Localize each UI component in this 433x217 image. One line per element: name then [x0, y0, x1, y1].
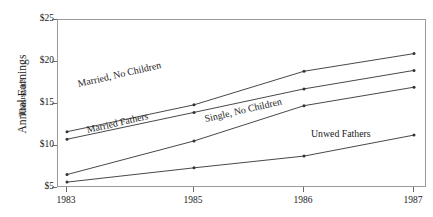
y-tick-label: $10: [28, 140, 54, 150]
y-tick-label: $25: [28, 14, 54, 24]
data-point: [413, 134, 416, 137]
data-point: [303, 155, 306, 158]
data-point: [413, 69, 416, 72]
data-point: [193, 111, 196, 114]
data-point: [303, 104, 306, 107]
chart-figure: Annual Earnings Thousands $25 $20 $15 $1…: [0, 0, 433, 217]
x-tick-label: 1986: [283, 195, 323, 205]
x-tick-label: 1985: [173, 195, 213, 205]
y-tick-mark: [52, 187, 57, 188]
data-point: [66, 138, 69, 141]
x-tick-label: 1987: [393, 195, 433, 205]
y-axis-tick-labels: $25 $20 $15 $10 $5: [26, 0, 54, 217]
y-tick-label: $5: [28, 182, 54, 192]
data-point: [413, 52, 416, 55]
series-annotation-unwed-fathers: Unwed Fathers: [311, 128, 371, 139]
data-point: [193, 103, 196, 106]
y-tick-label: $15: [28, 98, 54, 108]
data-point: [193, 139, 196, 142]
x-tick-label: 1983: [46, 195, 86, 205]
series-group: [66, 134, 416, 184]
data-point: [193, 166, 196, 169]
plot-area: [57, 19, 426, 187]
data-point: [413, 86, 416, 89]
data-point: [66, 173, 69, 176]
y-tick-label: $20: [28, 56, 54, 66]
data-point: [303, 87, 306, 90]
series-line: [67, 135, 414, 182]
data-point: [66, 130, 69, 133]
data-point: [303, 70, 306, 73]
data-point: [66, 181, 69, 184]
